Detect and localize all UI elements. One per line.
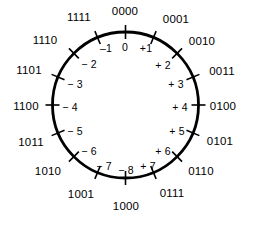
decimal-label: − 4: [62, 102, 78, 113]
binary-label: 0001: [163, 14, 189, 26]
decimal-label: + 3: [168, 79, 184, 90]
decimal-label: − 6: [81, 146, 97, 157]
decimal-label: + 6: [155, 146, 171, 157]
binary-label: 1110: [33, 35, 58, 47]
decimal-label: − 2: [81, 59, 97, 70]
number-circle-diagram: 000000001+10010+ 20011+ 30100+ 40101+ 50…: [0, 0, 253, 225]
decimal-label: –1: [100, 43, 112, 54]
decimal-label: − 5: [67, 126, 83, 137]
binary-label: 0000: [112, 6, 138, 18]
decimal-label: − 8: [118, 165, 134, 176]
binary-label: 0110: [188, 166, 214, 178]
decimal-label: + 7: [140, 161, 156, 172]
decimal-label: − 7: [96, 161, 112, 172]
binary-label: 1100: [13, 101, 39, 113]
binary-label: 0010: [189, 36, 215, 48]
binary-label: 0111: [160, 188, 185, 200]
decimal-label: 0: [122, 42, 128, 53]
binary-label: 1000: [113, 201, 139, 213]
binary-label: 0100: [210, 101, 236, 113]
binary-label: 0101: [207, 136, 233, 148]
decimal-label: +1: [140, 43, 152, 54]
decimal-label: + 2: [155, 60, 171, 71]
binary-label: 1001: [68, 189, 94, 201]
binary-label: 0011: [209, 66, 235, 78]
decimal-label: − 3: [67, 79, 83, 90]
decimal-label: + 5: [169, 126, 185, 137]
binary-label: 1111: [67, 12, 91, 24]
binary-label: 1010: [35, 166, 61, 178]
binary-label: 1101: [16, 65, 42, 77]
decimal-label: + 4: [172, 102, 188, 113]
binary-label: 1011: [18, 137, 44, 149]
